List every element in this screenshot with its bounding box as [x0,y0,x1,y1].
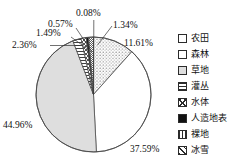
legend-item-label: 灌丛 [191,82,209,91]
legend-item[interactable]: 森林 [178,46,244,62]
legend-item-label: 冰雪 [191,146,209,155]
label-44-96: 44.96% [3,120,32,130]
legend-item[interactable]: 裸地 [178,126,244,142]
legend-item[interactable]: 农田 [178,30,244,46]
legend-item[interactable]: 灌丛 [178,78,244,94]
legend-item-label: 农田 [191,34,209,43]
legend-swatch-light-gray-icon [178,66,187,75]
legend-item-label: 草地 [191,66,209,75]
label-37-59: 37.59% [130,144,159,154]
label-1-49: 1.49% [36,28,61,38]
label-2-36: 2.36% [12,40,37,50]
legend-item-label: 森林 [191,50,209,59]
legend-swatch-diagonal-hatch-icon [178,146,187,155]
legend-item[interactable]: 草地 [178,62,244,78]
legend-item[interactable]: 冰雪 [178,142,244,158]
legend-swatch-dotted-icon [178,34,187,43]
legend-swatch-cross-hatch-icon [178,98,187,107]
label-11-61: 11.61% [124,38,153,48]
legend-swatch-solid-black-icon [178,114,187,123]
legend-item-label: 裸地 [191,130,209,139]
legend-swatch-vertical-lines-icon [178,130,187,139]
label-0-08: 0.08% [76,8,101,18]
pie-chart-figure: 0.08% 0.57% 1.49% 2.36% 1.34% 11.61% 37.… [0,0,244,168]
legend-item-label: 人造地表 [191,114,227,123]
label-1-34: 1.34% [113,20,138,30]
legend-item[interactable]: 水体 [178,94,244,110]
legend-item-label: 水体 [191,98,209,107]
legend-swatch-horizontal-lines-icon [178,82,187,91]
chart-legend: 农田森林草地灌丛水体人造地表裸地冰雪 [178,30,244,158]
legend-item[interactable]: 人造地表 [178,110,244,126]
legend-swatch-blank-icon [178,50,187,59]
